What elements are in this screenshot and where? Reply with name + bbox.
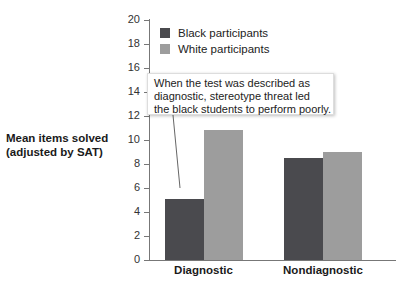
annotation-leader-line xyxy=(0,0,413,286)
annotation-line-1: When the test was described as xyxy=(154,77,333,90)
annotation-callout: When the test was described as diagnosti… xyxy=(147,73,334,115)
annotation-line-2: diagnostic, stereotype threat led xyxy=(154,90,333,103)
annotation-line-3: the black students to perform poorly. xyxy=(154,103,333,116)
